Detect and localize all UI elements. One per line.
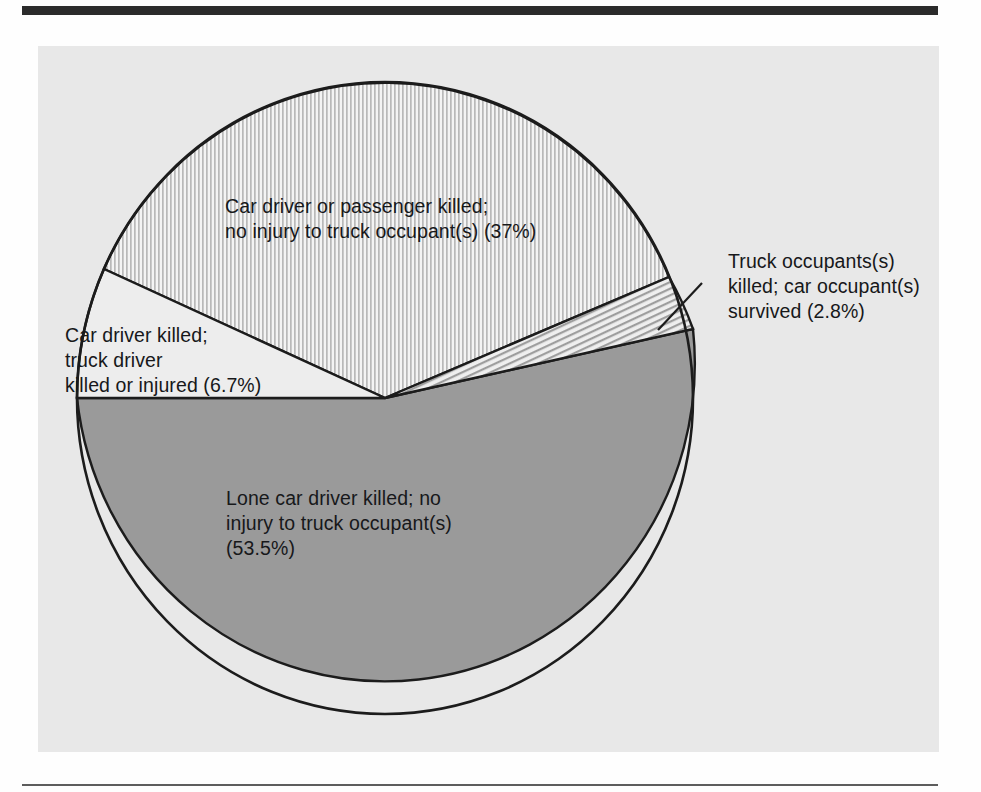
page-canvas: Car driver or passenger killed; no injur… — [0, 0, 981, 792]
bottom-horizontal-rule — [22, 784, 938, 786]
pie-label-lone-car-driver-killed: Lone car driver killed; no injury to tru… — [226, 486, 526, 561]
figure-panel: Car driver or passenger killed; no injur… — [38, 46, 939, 752]
top-horizontal-rule — [22, 6, 938, 15]
pie-label-truck-occupants-killed: Truck occupants(s) killed; car occupant(… — [728, 249, 939, 324]
pie-chart-svg — [38, 46, 939, 752]
pie-chart: Car driver or passenger killed; no injur… — [38, 46, 939, 752]
pie-label-car-driver-killed-truck-driver: Car driver killed; truck driver killed o… — [65, 323, 325, 398]
pie-label-car-driver-or-passenger-killed: Car driver or passenger killed; no injur… — [225, 194, 615, 244]
